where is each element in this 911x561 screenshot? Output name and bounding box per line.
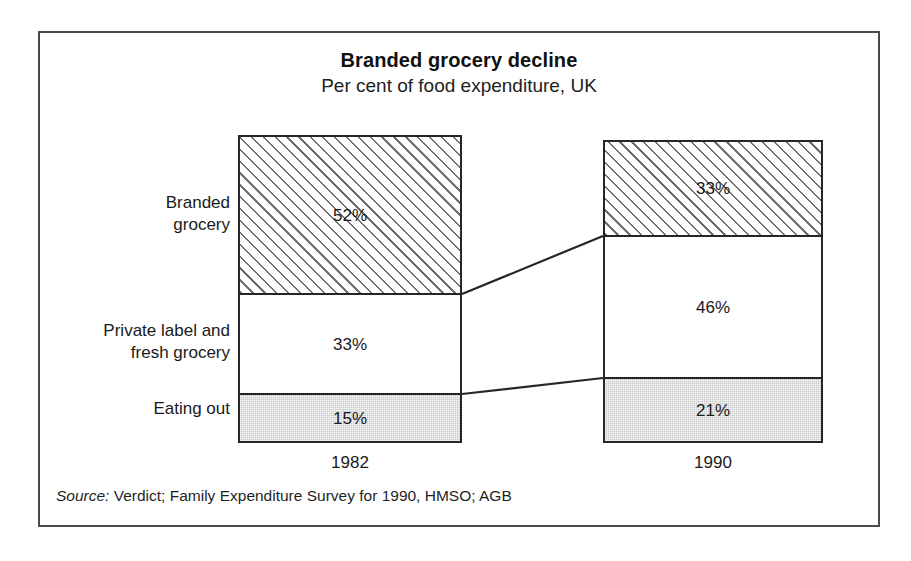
bar-1990-segment-private-label[interactable]: 46% xyxy=(603,235,823,379)
category-label-branded-grocery: Branded grocery xyxy=(45,192,230,236)
bar-1990-segment-eating-out[interactable]: 21% xyxy=(603,377,823,443)
bar-1982-segment-branded[interactable]: 52% xyxy=(238,135,462,295)
bar-1982-segment-private-label[interactable]: 33% xyxy=(238,293,462,395)
category-label-eating-out-line1: Eating out xyxy=(45,398,230,420)
axis-label-1990: 1990 xyxy=(593,453,833,473)
axis-label-1982: 1982 xyxy=(230,453,470,473)
connector-line-eating-out-boundary xyxy=(462,378,603,394)
category-label-private-label: Private label and fresh grocery xyxy=(45,320,230,364)
chart-figure: Branded grocery decline Per cent of food… xyxy=(0,0,911,561)
bar-1990-eating-out-value: 21% xyxy=(696,402,730,419)
source-note: Source: Verdict; Family Expenditure Surv… xyxy=(56,487,512,505)
category-label-branded-grocery-line2: grocery xyxy=(45,214,230,236)
bar-1982-branded-value: 52% xyxy=(333,207,367,224)
bar-1990-branded-value: 33% xyxy=(696,180,730,197)
bar-1990-private-label-value: 46% xyxy=(696,299,730,316)
bar-1982-eating-out-value: 15% xyxy=(333,410,367,427)
connector-line-branded-boundary xyxy=(462,236,603,294)
category-label-private-label-line2: fresh grocery xyxy=(45,342,230,364)
bar-1982-segment-eating-out[interactable]: 15% xyxy=(238,393,462,443)
source-note-text: Verdict; Family Expenditure Survey for 1… xyxy=(109,487,511,504)
category-label-private-label-line1: Private label and xyxy=(45,320,230,342)
bar-1982-private-label-value: 33% xyxy=(333,336,367,353)
category-label-eating-out: Eating out xyxy=(45,398,230,420)
bar-1990-segment-branded[interactable]: 33% xyxy=(603,140,823,237)
source-note-key: Source: xyxy=(56,487,109,504)
category-label-branded-grocery-line1: Branded xyxy=(45,192,230,214)
plot-area: 52% 33% 15% 33% 46% 21% xyxy=(0,0,911,561)
